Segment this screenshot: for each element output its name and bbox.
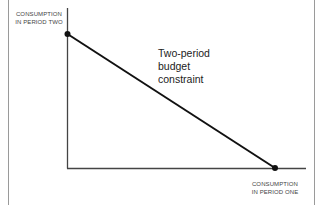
annotation-line3: constraint	[158, 73, 210, 86]
x-intercept-point	[272, 165, 278, 171]
x-axis-label-line2: IN PERIOD ONE	[240, 188, 310, 196]
x-axis-label: CONSUMPTION IN PERIOD ONE	[240, 180, 310, 196]
annotation-line2: budget	[158, 60, 210, 73]
y-intercept-point	[65, 31, 71, 37]
x-axis-label-line1: CONSUMPTION	[240, 180, 310, 188]
budget-constraint-diagram	[0, 0, 326, 205]
y-axis-label: CONSUMPTION IN PERIOD TWO	[12, 10, 66, 26]
budget-constraint-annotation: Two-period budget constraint	[158, 47, 210, 86]
y-axis-label-line2: IN PERIOD TWO	[12, 18, 66, 26]
annotation-line1: Two-period	[158, 47, 210, 60]
y-axis-label-line1: CONSUMPTION	[12, 10, 66, 18]
